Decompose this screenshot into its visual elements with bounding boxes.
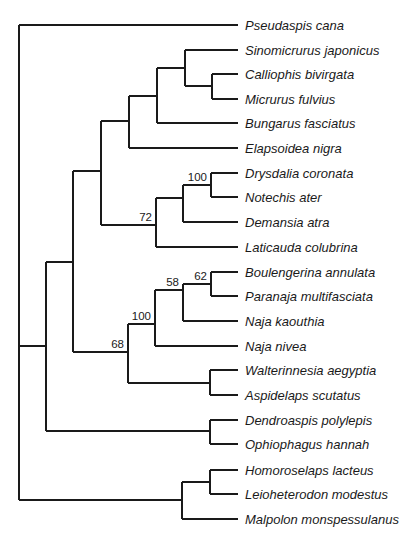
taxon-label: Naja kaouthia [245,314,325,329]
taxon-label: Pseudaspis cana [245,18,344,33]
support-value: 68 [111,338,124,350]
taxon-label: Demansia atra [245,215,330,230]
support-value: 62 [194,270,207,282]
taxon-label: Leioheterodon modestus [245,487,389,502]
phylogenetic-tree: 72100681005862 Pseudaspis canaSinomicrur… [0,0,415,544]
support-value: 100 [188,171,207,183]
taxon-label: Homoroselaps lacteus [245,463,374,478]
taxon-label: Bungarus fasciatus [245,116,356,131]
taxon-label: Malpolon monspessulanus [245,512,399,527]
taxon-labels: Pseudaspis canaSinomicrurus japonicusCal… [244,18,399,527]
taxon-label: Dendroaspis polylepis [245,413,373,428]
taxon-label: Paranaja multifasciata [245,289,373,304]
taxon-label: Aspidelaps scutatus [244,388,361,403]
taxon-label: Drysdalia coronata [245,166,353,181]
taxon-label: Micrurus fulvius [245,92,336,107]
support-value: 100 [132,310,151,322]
taxon-label: Sinomicrurus japonicus [245,43,380,58]
taxon-label: Calliophis bivirgata [245,67,354,82]
taxon-label: Ophiophagus hannah [245,437,369,452]
taxon-label: Notechis ater [245,190,322,205]
taxon-label: Laticauda colubrina [245,240,358,255]
taxon-label: Naja nivea [245,339,306,354]
taxon-label: Elapsoidea nigra [245,141,342,156]
support-value: 58 [166,276,179,288]
taxon-label: Walterinnesia aegyptia [245,363,376,378]
cropped-caption [0,538,415,544]
support-value: 72 [139,211,152,223]
taxon-label: Boulengerina annulata [245,265,375,280]
